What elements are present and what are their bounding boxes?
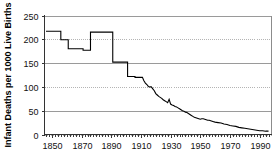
chart-container: 050100150200250 185018701890191019301950… <box>0 0 278 161</box>
y-tick-label-50: 50 <box>28 107 38 117</box>
x-tick-label-1870: 1870 <box>72 141 92 151</box>
y-tick-label-250: 250 <box>23 12 38 22</box>
x-tick-label-1970: 1970 <box>220 141 240 151</box>
x-tick-label-1850: 1850 <box>42 141 62 151</box>
x-tick-label-1930: 1930 <box>161 141 181 151</box>
plot-area-rect <box>45 16 272 135</box>
plot-background <box>45 16 272 135</box>
x-tick-label-1950: 1950 <box>190 141 210 151</box>
y-axis-title: Infant Deaths per 1000 Live Births <box>3 2 13 147</box>
y-tick-label-0: 0 <box>33 131 38 141</box>
y-tick-label-100: 100 <box>23 83 38 93</box>
x-tick-group: 18501870189019101930195019701990 <box>42 135 270 151</box>
infant-mortality-line-chart: 050100150200250 185018701890191019301950… <box>0 0 278 161</box>
x-tick-label-1910: 1910 <box>131 141 151 151</box>
x-tick-label-1890: 1890 <box>101 141 121 151</box>
y-tick-label-150: 150 <box>23 59 38 69</box>
x-tick-label-1990: 1990 <box>250 141 270 151</box>
y-tick-group: 050100150200250 <box>23 12 44 141</box>
y-tick-label-200: 200 <box>23 35 38 45</box>
